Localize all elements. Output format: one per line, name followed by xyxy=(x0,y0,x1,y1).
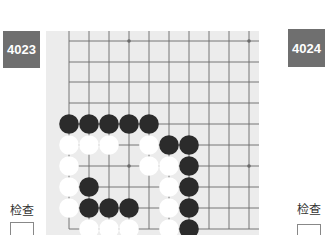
white-stone xyxy=(139,156,159,176)
go-board-grid xyxy=(46,31,259,235)
check-label-right: 检查 xyxy=(297,203,321,217)
white-stone xyxy=(59,135,79,155)
black-stone xyxy=(179,198,199,218)
star-point xyxy=(127,39,131,43)
black-stone xyxy=(59,114,79,134)
white-stone xyxy=(99,135,119,155)
white-stone xyxy=(59,198,79,218)
black-stone xyxy=(119,114,139,134)
white-stone xyxy=(159,156,179,176)
problem-number-badge-4023: 4023 xyxy=(3,31,40,68)
black-stone xyxy=(79,198,99,218)
white-stone xyxy=(79,135,99,155)
star-point xyxy=(247,164,251,168)
star-point xyxy=(247,39,251,43)
white-stone xyxy=(79,219,99,235)
black-stone xyxy=(179,177,199,197)
black-stone xyxy=(179,135,199,155)
black-stone xyxy=(139,114,159,134)
black-stone xyxy=(179,219,199,235)
white-stone xyxy=(159,198,179,218)
go-board[interactable] xyxy=(46,31,259,235)
star-point xyxy=(127,164,131,168)
black-stone xyxy=(99,114,119,134)
black-stone xyxy=(79,114,99,134)
check-label-left: 检查 xyxy=(10,204,34,218)
black-stone xyxy=(119,198,139,218)
white-stone xyxy=(159,177,179,197)
black-stone xyxy=(79,177,99,197)
black-stone xyxy=(99,198,119,218)
white-stone xyxy=(159,219,179,235)
white-stone xyxy=(99,219,119,235)
white-stone xyxy=(59,177,79,197)
white-stone xyxy=(59,156,79,176)
black-stone xyxy=(179,156,199,176)
white-stone xyxy=(119,219,139,235)
white-stone xyxy=(139,135,159,155)
check-checkbox-right[interactable] xyxy=(297,224,321,235)
check-checkbox-left[interactable] xyxy=(10,222,34,235)
problem-number-badge-4024: 4024 xyxy=(288,29,325,67)
black-stone xyxy=(159,135,179,155)
